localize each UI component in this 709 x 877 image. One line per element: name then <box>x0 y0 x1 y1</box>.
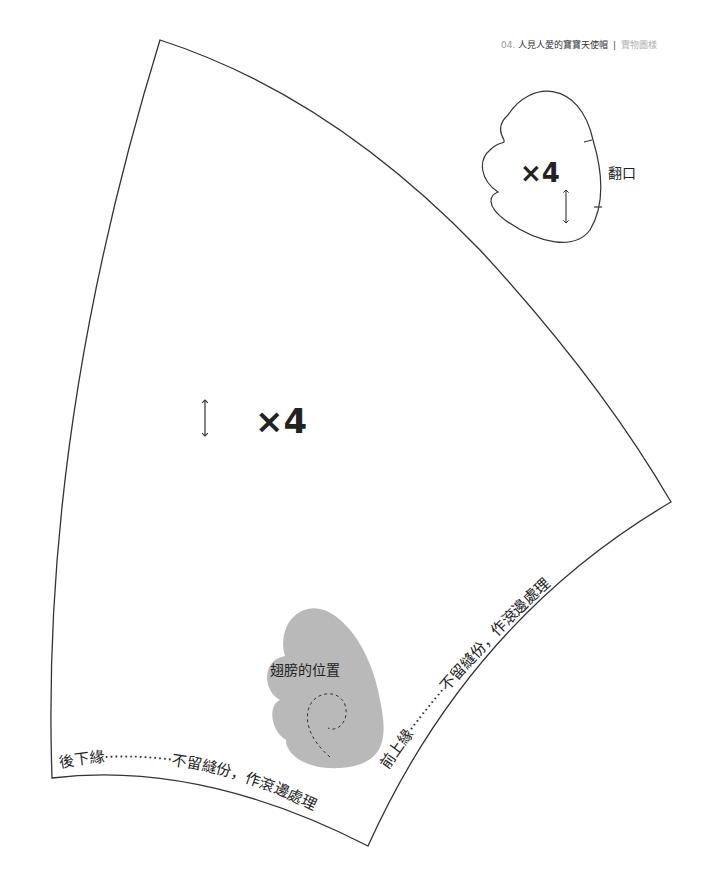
notch-mark <box>584 140 592 142</box>
back-lower-edge-label: 後下緣··············不留縫份，作滾邊處理 <box>58 748 320 814</box>
back-lower-edge-note: 不留縫份，作滾邊處理 <box>171 751 320 814</box>
wing-position-label: 翅膀的位置 <box>270 662 340 678</box>
front-upper-edge-note: 不留縫份，作滾邊處理 <box>436 574 554 695</box>
wing-position-shape <box>267 608 384 768</box>
main-quantity-label: ×4 <box>255 401 307 441</box>
front-upper-edge-label: 前上緣···········不留縫份，作滾邊處理 <box>376 574 554 772</box>
back-lower-edge-dots: ·············· <box>104 748 173 769</box>
back-lower-edge-name: 後下緣 <box>58 748 105 772</box>
brim-quantity-label: ×4 <box>520 158 560 188</box>
opening-label: 翻口 <box>608 165 636 181</box>
pattern-canvas: ×4 ×4 翻口 翅膀的位置 後下緣··············不留縫份，作滾邊… <box>0 0 709 877</box>
front-upper-edge-dots: ··········· <box>403 683 450 736</box>
